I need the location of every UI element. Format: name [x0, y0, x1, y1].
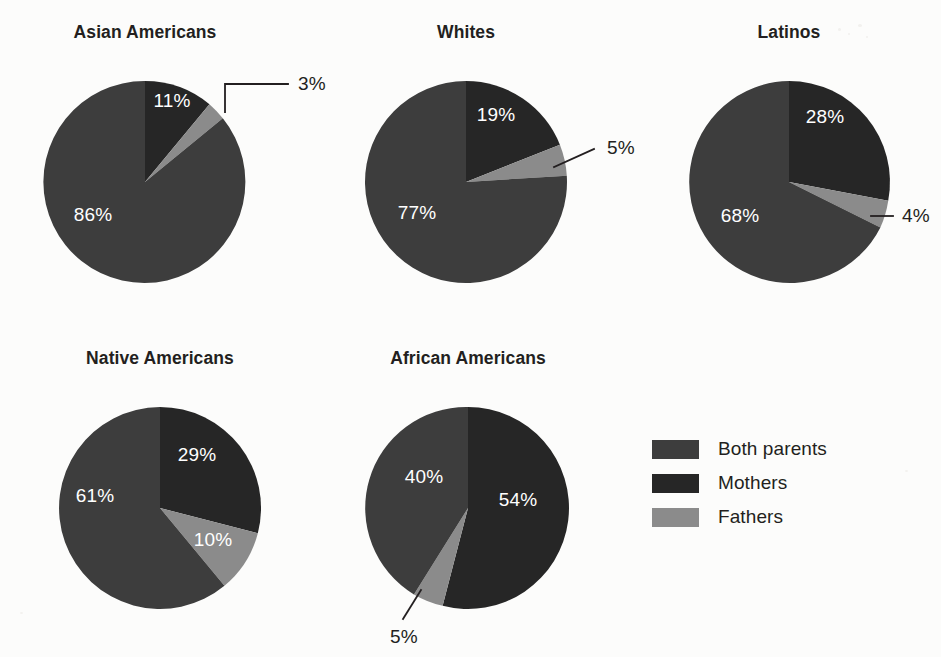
pie-value-label-both-parents: 40% — [405, 466, 444, 488]
legend-swatch-both-parents — [652, 440, 699, 459]
pie-value-label-fathers: 10% — [194, 529, 233, 551]
pie-value-label-fathers: 3% — [298, 73, 326, 95]
pie-african-americans — [367, 407, 569, 609]
pie-value-label-mothers: 28% — [806, 106, 845, 128]
pie-value-label-both-parents: 86% — [74, 204, 113, 226]
pie-svg-african-americans — [367, 407, 569, 609]
pie-slice-mothers — [789, 81, 890, 201]
paper-speck — [848, 33, 850, 35]
paper-speck — [20, 612, 23, 614]
pie-value-label-mothers: 54% — [499, 489, 538, 511]
pie-value-label-mothers: 29% — [178, 444, 217, 466]
pie-asian-americans — [44, 81, 246, 283]
pie-svg-whites — [365, 81, 567, 283]
legend-item-fathers[interactable]: Fathers — [652, 500, 827, 534]
paper-speck — [905, 470, 908, 472]
paper-speck — [866, 36, 868, 38]
pie-native-americans — [59, 407, 261, 609]
paper-speck — [838, 28, 841, 31]
legend-label-fathers: Fathers — [718, 506, 783, 528]
pie-latinos — [688, 81, 890, 283]
legend: Both parents Mothers Fathers — [652, 432, 827, 534]
legend-swatch-mothers — [652, 474, 699, 493]
pie-svg-asian-americans — [44, 81, 246, 283]
legend-swatch-fathers — [652, 508, 699, 527]
pie-title-whites: Whites — [437, 22, 495, 43]
legend-item-mothers[interactable]: Mothers — [652, 466, 827, 500]
pie-whites — [365, 81, 567, 283]
pie-value-label-fathers: 5% — [607, 137, 635, 159]
pie-svg-latinos — [688, 81, 890, 283]
pie-value-label-mothers: 19% — [477, 104, 516, 126]
pie-value-label-both-parents: 61% — [76, 485, 115, 507]
pie-value-label-fathers: 5% — [390, 626, 418, 648]
pie-value-label-fathers: 4% — [902, 205, 930, 227]
pie-title-latinos: Latinos — [758, 22, 821, 43]
paper-speck — [858, 24, 862, 27]
leader-line-fathers-latinos — [871, 212, 901, 220]
pie-title-native-americans: Native Americans — [86, 348, 234, 369]
leader-line-fathers-african-americans — [403, 587, 435, 623]
legend-item-both-parents[interactable]: Both parents — [652, 432, 827, 466]
legend-label-mothers: Mothers — [718, 472, 787, 494]
pie-value-label-mothers: 11% — [153, 90, 190, 112]
legend-label-both-parents: Both parents — [718, 438, 827, 460]
leader-line-fathers-asian-americans — [225, 71, 295, 113]
pie-value-label-both-parents: 77% — [398, 202, 437, 224]
pie-svg-native-americans — [59, 407, 261, 609]
pie-value-label-both-parents: 68% — [721, 205, 760, 227]
leader-line-fathers-whites — [554, 144, 600, 170]
pie-title-asian-americans: Asian Americans — [74, 22, 217, 43]
pie-title-african-americans: African Americans — [390, 348, 546, 369]
chart-figure: Asian Americans 11% 86% 3% Whites — [0, 0, 941, 657]
